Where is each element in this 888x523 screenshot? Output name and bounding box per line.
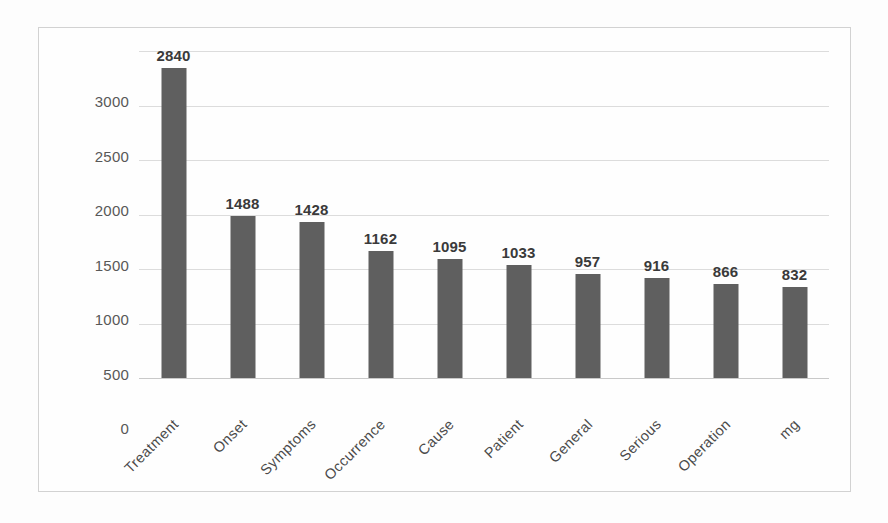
x-axis-label-slot: Serious: [622, 412, 691, 492]
bar-group: 957: [553, 51, 622, 378]
x-axis-label-slot: Onset: [208, 412, 277, 492]
bar-group: 2840: [139, 51, 208, 378]
bar-group: 1162: [346, 51, 415, 378]
y-axis-tick-label: 2000: [73, 202, 129, 219]
x-axis-category-label: mg: [776, 416, 802, 442]
bar-value-label: 1488: [225, 195, 259, 212]
bar[interactable]: [230, 216, 255, 378]
bar-group: 1095: [415, 51, 484, 378]
bar-value-label: 866: [713, 263, 739, 280]
bar-group: 1488: [208, 51, 277, 378]
bar-value-label: 957: [575, 253, 601, 270]
bar[interactable]: [713, 284, 738, 378]
page-background: 300025002000150010005000 284014881428116…: [0, 0, 888, 523]
bar[interactable]: [644, 278, 669, 378]
x-axis-label-slot: Occurrence: [346, 412, 415, 492]
bar[interactable]: [575, 274, 600, 378]
bar-group: 1428: [277, 51, 346, 378]
bar-value-label: 1428: [294, 201, 328, 218]
y-axis-tick-label: 3000: [73, 93, 129, 110]
x-axis-label-slot: Patient: [484, 412, 553, 492]
bar-group: 866: [691, 51, 760, 378]
x-axis-category-label: General: [546, 416, 596, 466]
bar[interactable]: [161, 68, 186, 378]
bar-value-label: 1162: [364, 230, 397, 247]
bar-group: 916: [622, 51, 691, 378]
y-axis-tick-label: 500: [73, 365, 129, 382]
x-axis-category-label: Onset: [210, 416, 250, 456]
x-axis-label-slot: Operation: [691, 412, 760, 492]
y-axis-tick-label: 1000: [73, 311, 129, 328]
bar-group: 832: [760, 51, 829, 378]
y-axis-tick-label: 2500: [73, 147, 129, 164]
x-axis-label-slot: Treatment: [139, 412, 208, 492]
chart-frame: 300025002000150010005000 284014881428116…: [38, 27, 851, 492]
x-axis-label-slot: mg: [760, 412, 829, 492]
bar-group: 1033: [484, 51, 553, 378]
bar[interactable]: [368, 251, 393, 378]
bar[interactable]: [437, 259, 462, 378]
bar[interactable]: [506, 265, 531, 378]
bar[interactable]: [782, 287, 807, 378]
x-axis-category-label: Cause: [415, 416, 457, 458]
x-axis-label-slot: General: [553, 412, 622, 492]
gridline: [139, 378, 829, 379]
x-axis-label-slot: Symptoms: [277, 412, 346, 492]
bar-value-label: 916: [644, 257, 670, 274]
x-axis-category-label: Treatment: [121, 416, 181, 476]
bar-value-label: 2840: [156, 47, 190, 64]
bar-value-label: 1033: [501, 244, 535, 261]
y-axis-tick-label: 1500: [73, 256, 129, 273]
y-axis-tick-labels: 300025002000150010005000: [73, 78, 129, 405]
x-axis-label-slot: Cause: [415, 412, 484, 492]
x-axis-category-label: Serious: [616, 416, 664, 464]
bar[interactable]: [299, 222, 324, 378]
y-axis-tick-label: 0: [73, 420, 129, 437]
bar-value-label: 832: [782, 266, 808, 283]
x-axis-category-label: Patient: [481, 416, 526, 461]
plot-area: 284014881428116210951033957916866832: [139, 51, 829, 378]
bar-value-label: 1095: [432, 238, 466, 255]
